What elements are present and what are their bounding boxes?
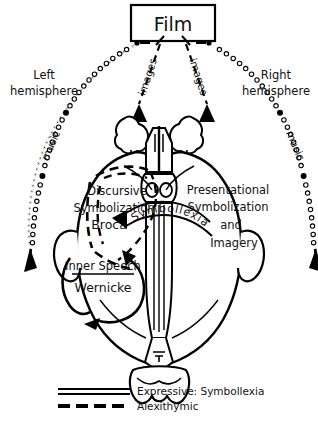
right-chain-dot-lower xyxy=(301,173,307,179)
discursive-line2: Symbolization xyxy=(73,201,154,215)
right-hemisphere-line1: Right xyxy=(261,68,292,82)
right-hemisphere-line2: hemisphere xyxy=(242,84,310,98)
legend-label-expressive: Expressive: Symbollexia xyxy=(137,385,264,397)
brain-symbolization-figure: Film xyxy=(0,0,318,428)
wernicke-line: Wernicke xyxy=(75,280,132,295)
figure-canvas: Film xyxy=(0,0,318,428)
film-label: Film xyxy=(154,13,193,35)
presentational-line1: Presentational xyxy=(187,183,269,197)
inner-speech-line1: Inner Speech xyxy=(65,259,141,273)
right-chain-dot-upper xyxy=(277,110,283,116)
presentational-line2: Symbolization xyxy=(187,200,268,214)
left-chain-dot-lower xyxy=(39,173,45,179)
film-source-box: Film xyxy=(131,5,215,41)
left-hemisphere-line1: Left xyxy=(33,68,55,82)
presentational-line4: Imagery xyxy=(210,236,258,250)
discursive-line3: Broca xyxy=(91,217,127,232)
left-hemisphere-line2: hemisphere xyxy=(10,84,78,98)
discursive-line1: Discursive xyxy=(87,184,146,198)
legend-label-alexithymic: Alexithymic xyxy=(137,400,199,412)
left-chain-dot-upper xyxy=(63,110,69,116)
figure-caption xyxy=(0,419,318,428)
presentational-line3: and xyxy=(220,218,242,232)
